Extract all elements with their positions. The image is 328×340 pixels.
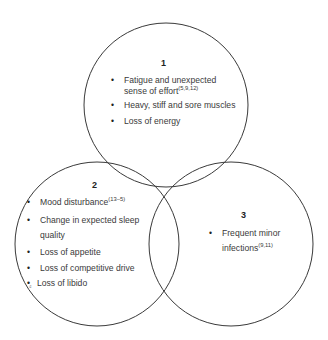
group-1-list: Fatigue and unexpectedsense of effort(5,… [109,75,235,131]
citation: (5,9,12) [178,85,198,91]
group-3-number: 3 [241,210,246,221]
list-item: Change in expected sleepquality [25,213,139,243]
citation: (9,11) [258,242,273,248]
list-item: Loss of competitive drive [25,263,139,274]
group-1-number: 1 [161,58,166,69]
list-item: Heavy, stiff and sore muscles [109,100,235,111]
group-2-list: Mood disturbance(13–5) Change in expecte… [25,197,139,294]
group-2-number: 2 [92,180,97,191]
list-item: Loss of energy [109,116,235,127]
group-3-list: Frequent minorinfections(9,11) [207,226,280,261]
citation: (13–5) [108,196,125,202]
list-item: Mood disturbance(13–5) [25,197,139,208]
list-item: Fatigue and unexpectedsense of effort(5,… [109,75,235,97]
list-item: Loss of appetite [25,247,139,258]
list-item: ₫Loss of libido [25,278,139,289]
artifact-glyph: ₫ [29,282,32,293]
list-item: Frequent minorinfections(9,11) [207,226,280,256]
